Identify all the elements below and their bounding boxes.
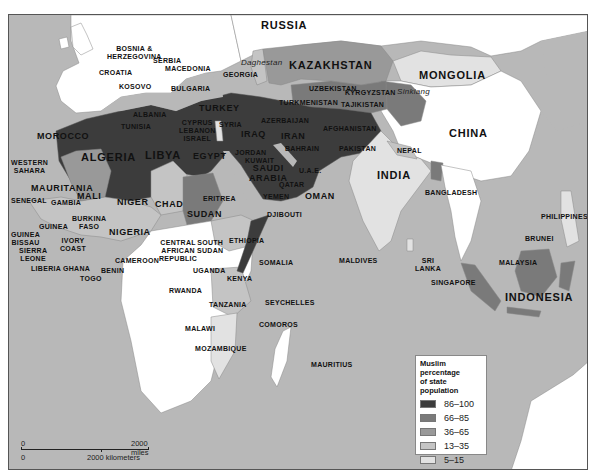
label-albania: ALBANIA xyxy=(133,111,167,119)
label-uganda: UGANDA xyxy=(193,267,226,275)
label-tunisia: TUNISIA xyxy=(121,123,151,131)
label-car-line3: REPUBLIC xyxy=(159,255,197,262)
label-ws-line2: SAHARA xyxy=(14,167,46,174)
label-tanzania: TANZANIA xyxy=(209,301,247,309)
label-brunei: BRUNEI xyxy=(525,235,554,243)
label-libya: LIBYA xyxy=(145,149,181,161)
legend-title: Muslim percentage of state population xyxy=(420,359,482,395)
legend-swatch xyxy=(420,428,436,436)
label-sierra-leone: SIERRALEONE xyxy=(19,247,47,263)
label-seychelles: SEYCHELLES xyxy=(265,299,315,307)
label-yemen: YEMEN xyxy=(263,193,289,201)
label-nigeria: NIGERIA xyxy=(109,227,151,237)
legend-item-5-15: 5–15 xyxy=(420,455,482,465)
label-oman: OMAN xyxy=(305,191,335,201)
label-china: CHINA xyxy=(449,127,488,139)
label-bahrain: BAHRAIN xyxy=(285,145,319,153)
borneo-landmass xyxy=(515,249,557,297)
label-ivory-line2: COAST xyxy=(60,245,86,252)
label-macedonia: MACEDONIA xyxy=(165,65,211,73)
label-car-line1: CENTRAL xyxy=(160,239,196,246)
label-ethiopia: ETHIOPIA xyxy=(229,237,264,245)
scale-line xyxy=(21,449,149,450)
label-car-line2: AFRICAN xyxy=(161,247,195,254)
label-benin: BENIN xyxy=(101,267,124,275)
legend-range: 36–65 xyxy=(444,427,469,437)
label-rwanda: RWANDA xyxy=(169,287,202,295)
label-serbia: SERBIA xyxy=(153,57,181,65)
label-qatar: QATAR xyxy=(279,181,304,189)
label-azerbaijan: AZERBAIJAN xyxy=(261,117,309,125)
legend-item-13-35: 13–35 xyxy=(420,441,482,451)
label-sl-line2: LEONE xyxy=(20,255,46,262)
bangladesh-region xyxy=(431,161,443,181)
label-guinea-bissau: GUINEABISSAU xyxy=(11,231,40,247)
australia-landmass xyxy=(511,361,588,470)
label-senegal: SENEGAL xyxy=(11,197,47,205)
label-western-sahara: WESTERNSAHARA xyxy=(11,159,48,175)
label-saudi-arabia: SAUDIARABIA xyxy=(249,163,288,183)
madagascar-landmass xyxy=(271,327,291,387)
label-cameroon: CAMEROON xyxy=(115,257,159,265)
label-pakistan: PAKISTAN xyxy=(339,145,376,153)
label-gambia: GAMBIA xyxy=(51,199,81,207)
label-croatia: CROATIA xyxy=(99,69,132,77)
label-india: INDIA xyxy=(377,169,411,181)
label-togo: TOGO xyxy=(80,275,102,283)
label-nepal: NEPAL xyxy=(397,147,422,155)
scale-km-label: 2000 kilometers xyxy=(87,453,140,462)
legend-range: 5–15 xyxy=(444,455,464,465)
label-daghestan: Daghestan xyxy=(241,59,282,67)
label-kenya: KENYA xyxy=(227,275,252,283)
legend-item-66-85: 66–85 xyxy=(420,413,482,423)
label-burkina-faso: BURKINAFASO xyxy=(72,215,106,231)
legend-swatch xyxy=(420,400,436,408)
label-georgia: GEORGIA xyxy=(223,71,258,79)
label-central-african-republic: CENTRALAFRICANREPUBLIC xyxy=(159,239,197,263)
label-sinkiang: Sinkiang xyxy=(397,88,430,96)
label-liberia: LIBERIA xyxy=(31,265,61,273)
label-syria: SYRIA xyxy=(219,121,242,129)
label-ss-line2: SUDAN xyxy=(197,247,223,254)
label-iran: IRAN xyxy=(281,131,305,141)
label-maldives: MALDIVES xyxy=(339,257,378,265)
label-malawi: MALAWI xyxy=(185,325,215,333)
scale-zero-km: 0 xyxy=(21,453,25,462)
label-eritrea: ERITREA xyxy=(203,195,236,203)
label-guinea: GUINEA xyxy=(39,223,68,231)
label-djibouti: DJIBOUTI xyxy=(267,211,302,219)
label-turkmenistan: TURKMENISTAN xyxy=(279,99,338,107)
sulawesi-landmass xyxy=(559,261,575,291)
label-iraq: IRAQ xyxy=(241,129,266,139)
label-saudi-line1: SAUDI xyxy=(253,163,284,173)
label-ghana: GHANA xyxy=(63,265,90,273)
label-mongolia: MONGOLIA xyxy=(419,69,486,81)
label-ws-line1: WESTERN xyxy=(11,159,48,166)
label-bangladesh: BANGLADESH xyxy=(425,189,477,197)
ireland-landmass xyxy=(59,37,69,49)
legend-range: 66–85 xyxy=(444,413,469,423)
legend-range: 86–100 xyxy=(444,399,474,409)
scale-tick xyxy=(101,449,102,452)
label-israel: ISRAEL xyxy=(184,135,211,142)
map-legend: Muslim percentage of state population 86… xyxy=(415,355,487,455)
label-tajikistan: TAJIKISTAN xyxy=(341,101,384,109)
legend-title-line2: of state population xyxy=(420,377,458,395)
label-russia: RUSSIA xyxy=(261,19,307,31)
label-singapore: SINGAPORE xyxy=(431,279,476,287)
label-uae: U.A.E. xyxy=(299,167,321,175)
label-chad: CHAD xyxy=(155,199,183,209)
label-somalia: SOMALIA xyxy=(259,259,293,267)
map-canvas xyxy=(9,15,588,470)
label-sri-line1: SRI xyxy=(422,257,435,264)
label-gb-line2: BISSAU xyxy=(11,239,39,246)
label-sri-lanka: SRILANKA xyxy=(415,257,441,273)
label-ivory-line1: IVORY xyxy=(61,237,84,244)
java-landmass xyxy=(507,307,541,317)
label-niger: NIGER xyxy=(117,197,149,207)
legend-swatch xyxy=(420,456,436,464)
legend-range: 13–35 xyxy=(444,441,469,451)
east-asia-coast xyxy=(541,31,588,131)
label-jordan: JORDAN xyxy=(235,149,266,157)
sri-lanka-landmass xyxy=(407,239,413,251)
